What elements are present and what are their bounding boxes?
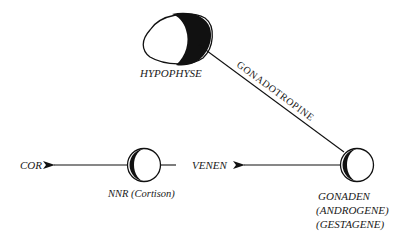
venen-label: VENEN	[192, 159, 227, 171]
gonaden-node	[341, 149, 374, 182]
gonadotropine-label: GONADOTROPINE	[235, 59, 317, 123]
gonadotropine-edge	[199, 45, 344, 152]
gonaden-label-line-1: GONADEN	[318, 190, 371, 202]
hypophyse-label: HYPOPHYSE	[139, 67, 202, 79]
nnr-node	[128, 149, 161, 182]
hypophyse-node	[143, 13, 212, 66]
hormone-diagram: HYPOPHYSE GONADOTROPINE GONADEN (ANDROGE…	[0, 0, 418, 239]
gonaden-label-line-2: (ANDROGENE)	[316, 204, 389, 217]
gonaden-label-line-3: (GESTAGENE)	[316, 218, 385, 231]
nnr-label: NNR (Cortison)	[107, 188, 175, 200]
cor-label: COR	[20, 159, 42, 171]
